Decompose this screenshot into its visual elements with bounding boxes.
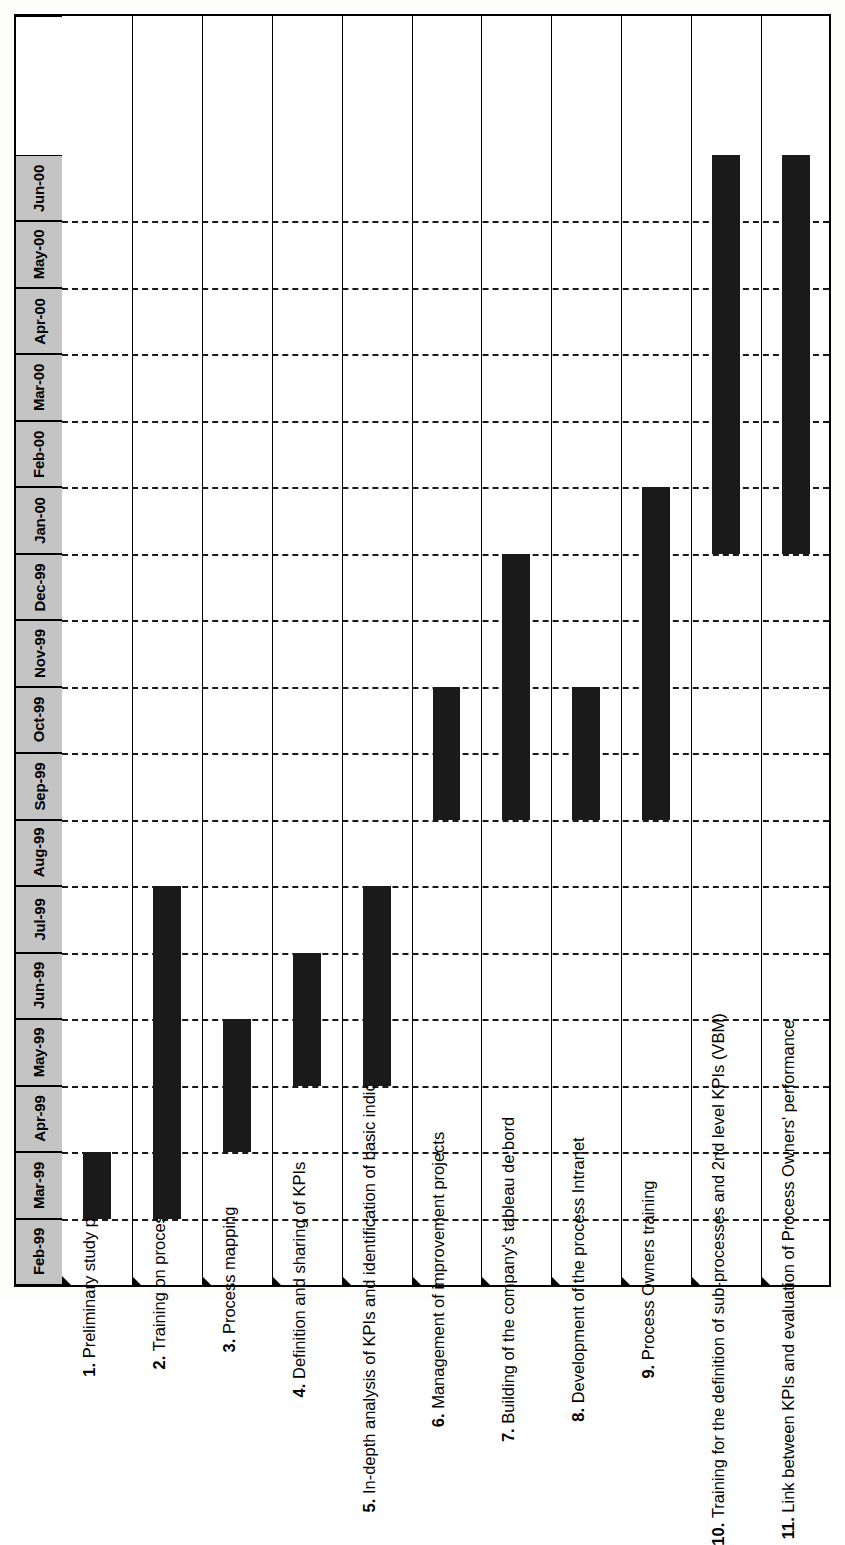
month-header-label: May-00 — [31, 230, 48, 280]
month-header-may-00: May-00 — [16, 221, 62, 287]
month-header-label: Feb-00 — [31, 431, 48, 478]
task-number: 2. — [149, 1351, 167, 1369]
task-name: In-depth analysis of KPIs and identifica… — [359, 1046, 377, 1494]
gantt-bar-task-3[interactable] — [223, 1019, 251, 1152]
task-lane-1[interactable]: 1. Preliminary study phase — [62, 16, 132, 1285]
lane-corner-marker — [481, 1276, 490, 1285]
month-header-oct-99: Oct-99 — [16, 687, 62, 753]
task-number: 9. — [639, 1360, 657, 1378]
task-lane-5[interactable]: 5. In-depth analysis of KPIs and identif… — [342, 16, 412, 1285]
task-number: 7. — [499, 1423, 517, 1441]
lane-corner-marker — [132, 1276, 141, 1285]
month-header-label: Feb-99 — [31, 1228, 48, 1275]
task-number: 3. — [219, 1334, 237, 1352]
month-header-apr-99: Apr-99 — [16, 1086, 62, 1152]
gantt-bar-task-9[interactable] — [642, 487, 670, 819]
gantt-chart: Feb-99Mar-99Apr-99May-99Jun-99Jul-99Aug-… — [14, 14, 831, 1287]
task-label-11: 11. Link between KPIs and evaluation of … — [780, 1019, 797, 1539]
month-header-may-99: May-99 — [16, 1019, 62, 1085]
task-label-9: 9. Process Owners training — [640, 1180, 657, 1378]
month-header-jul-99: Jul-99 — [16, 886, 62, 952]
task-lane-4[interactable]: 4. Definition and sharing of KPIs — [272, 16, 342, 1285]
axis-corner-cell — [16, 16, 62, 155]
month-header-label: Mar-00 — [31, 364, 48, 411]
gantt-bar-task-8[interactable] — [572, 687, 600, 820]
task-number: 1. — [79, 1358, 97, 1376]
gantt-bar-task-2[interactable] — [153, 886, 181, 1218]
task-label-7: 7. Building of the company's tableau de … — [500, 1116, 517, 1441]
lane-corner-marker — [761, 1276, 770, 1285]
lane-corner-marker — [621, 1276, 630, 1285]
task-name: Management of improvement projects — [429, 1131, 447, 1408]
lane-corner-marker — [691, 1276, 700, 1285]
lane-corner-marker — [551, 1276, 560, 1285]
month-header-label: Aug-99 — [31, 828, 48, 878]
month-header-label: Apr-00 — [31, 298, 48, 344]
lane-corner-marker — [62, 1276, 71, 1285]
task-number: 4. — [289, 1379, 307, 1397]
task-label-5: 5. In-depth analysis of KPIs and identif… — [360, 1046, 377, 1512]
task-lane-6[interactable]: 6. Management of improvement projects — [412, 16, 482, 1285]
task-label-8: 8. Development of the process Intranet — [570, 1137, 587, 1421]
month-header-label: Sep-99 — [31, 762, 48, 810]
task-name: Building of the company's tableau de bor… — [499, 1116, 517, 1423]
lane-corner-marker — [272, 1276, 281, 1285]
task-number: 5. — [359, 1494, 377, 1512]
task-name: Definition and sharing of KPIs — [289, 1161, 307, 1378]
task-lane-7[interactable]: 7. Building of the company's tableau de … — [481, 16, 551, 1285]
task-lane-10[interactable]: 10. Training for the definition of sub-p… — [691, 16, 761, 1285]
task-number: 6. — [429, 1408, 447, 1426]
month-header-label: Mar-99 — [31, 1162, 48, 1209]
gantt-plot-area: 1. Preliminary study phase2. Training on… — [62, 16, 829, 1285]
task-name: Link between KPIs and evaluation of Proc… — [779, 1019, 797, 1512]
task-label-10: 10. Training for the definition of sub-p… — [710, 1013, 727, 1545]
task-lane-9[interactable]: 9. Process Owners training — [621, 16, 691, 1285]
task-number: 10. — [709, 1518, 727, 1545]
task-number: 8. — [569, 1403, 587, 1421]
gantt-bar-task-4[interactable] — [293, 953, 321, 1086]
task-number: 11. — [779, 1512, 797, 1539]
task-lane-11[interactable]: 11. Link between KPIs and evaluation of … — [761, 16, 831, 1285]
task-lane-8[interactable]: 8. Development of the process Intranet — [551, 16, 621, 1285]
month-header-label: Jun-00 — [31, 165, 48, 212]
task-name: Process mapping — [219, 1206, 237, 1333]
lane-corner-marker — [342, 1276, 351, 1285]
gantt-bar-task-11[interactable] — [782, 155, 810, 554]
month-header-label: Nov-99 — [31, 629, 48, 678]
gantt-bar-task-10[interactable] — [712, 155, 740, 554]
lane-corner-marker — [412, 1276, 421, 1285]
month-header-label: Apr-99 — [31, 1096, 48, 1142]
month-header-apr-00: Apr-00 — [16, 288, 62, 354]
month-header-jan-00: Jan-00 — [16, 487, 62, 553]
month-header-feb-00: Feb-00 — [16, 421, 62, 487]
task-label-6: 6. Management of improvement projects — [430, 1131, 447, 1426]
task-label-4: 4. Definition and sharing of KPIs — [290, 1161, 307, 1397]
month-header-mar-00: Mar-00 — [16, 354, 62, 420]
month-header-jun-99: Jun-99 — [16, 953, 62, 1019]
month-header-jun-00: Jun-00 — [16, 155, 62, 221]
task-label-3: 3. Process mapping — [220, 1206, 237, 1352]
month-header-label: Jan-00 — [31, 497, 48, 543]
task-name: Process Owners training — [639, 1180, 657, 1360]
gantt-bar-task-1[interactable] — [83, 1152, 111, 1218]
month-header-dec-99: Dec-99 — [16, 554, 62, 620]
month-header-label: Jun-99 — [31, 962, 48, 1009]
month-header-label: May-99 — [31, 1028, 48, 1078]
month-header-label: Dec-99 — [31, 563, 48, 611]
task-lane-3[interactable]: 3. Process mapping — [202, 16, 272, 1285]
task-name: Training for the definition of sub-proce… — [709, 1013, 727, 1518]
month-header-nov-99: Nov-99 — [16, 620, 62, 686]
month-header-label: Jul-99 — [31, 898, 48, 940]
month-header-label: Oct-99 — [31, 697, 48, 743]
task-name: Development of the process Intranet — [569, 1137, 587, 1403]
gantt-bar-task-5[interactable] — [363, 886, 391, 1085]
lane-corner-marker — [202, 1276, 211, 1285]
month-axis-header: Feb-99Mar-99Apr-99May-99Jun-99Jul-99Aug-… — [16, 16, 62, 1285]
month-header-sep-99: Sep-99 — [16, 753, 62, 819]
gantt-bar-task-7[interactable] — [502, 554, 530, 820]
task-lane-2[interactable]: 2. Training on processes — [132, 16, 202, 1285]
month-header-feb-99: Feb-99 — [16, 1219, 62, 1285]
gantt-bar-task-6[interactable] — [433, 687, 461, 820]
month-header-aug-99: Aug-99 — [16, 820, 62, 886]
